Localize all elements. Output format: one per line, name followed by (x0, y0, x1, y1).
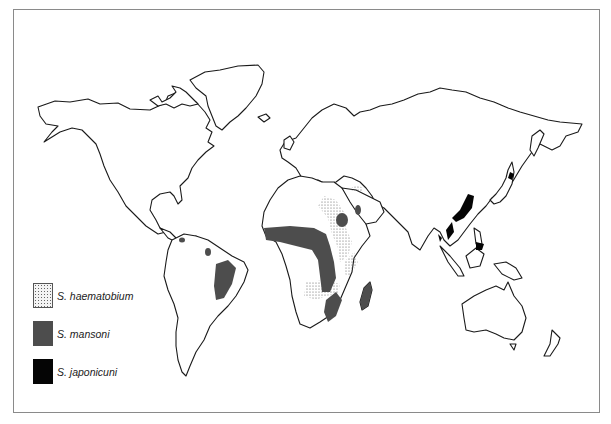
dark-gray-swatch-icon (33, 321, 53, 346)
south-america (164, 234, 248, 376)
legend-label: S. haematobium (57, 290, 133, 302)
legend-label: S. mansoni (57, 328, 110, 340)
legend-item-mansoni: S. mansoni (33, 321, 133, 346)
legend-label: S. japonicuni (57, 366, 117, 378)
sumatra (440, 246, 464, 276)
dotted-swatch-icon (33, 283, 53, 308)
north-america (38, 92, 214, 234)
legend: S. haematobium S. mansoni S. japonicuni (33, 283, 133, 397)
tasmania (510, 344, 516, 350)
new-zealand (544, 330, 560, 356)
new-guinea (494, 262, 522, 280)
philippines (474, 228, 482, 244)
arctic-islands (150, 86, 198, 108)
legend-item-japonicum: S. japonicuni (33, 359, 133, 384)
black-swatch-icon (33, 359, 53, 384)
iceland (258, 114, 270, 122)
australia (462, 282, 526, 340)
legend-item-haematobium: S. haematobium (33, 283, 133, 308)
borneo (466, 248, 484, 268)
